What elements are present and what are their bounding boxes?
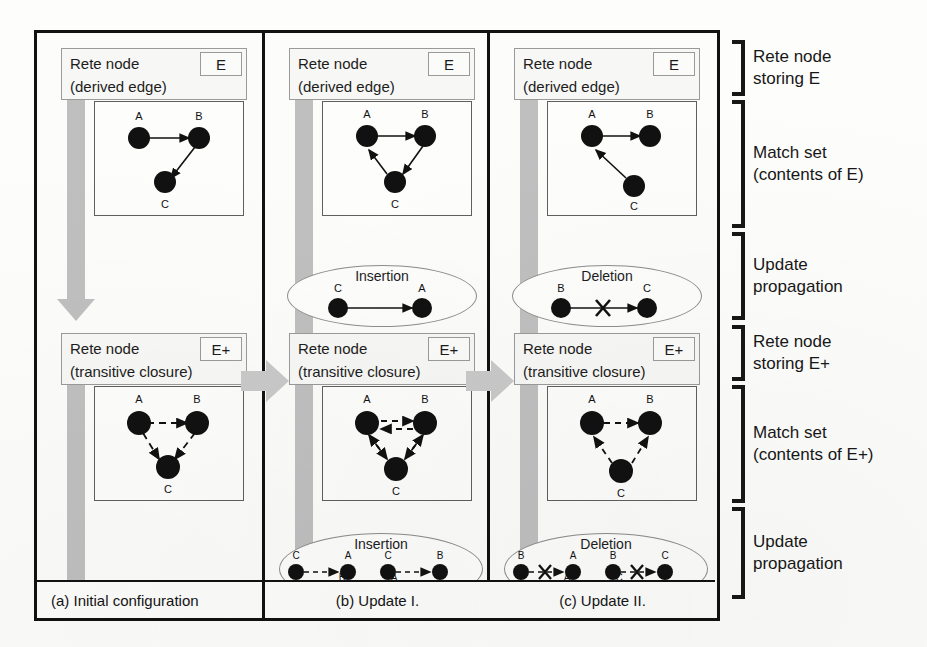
rete-tag-eplus: E+	[200, 337, 242, 361]
graph-svg-closure-a: A B C	[95, 387, 243, 500]
svg-text:B: B	[610, 550, 617, 561]
bracket-icon	[732, 100, 745, 228]
annotation-match-set-contents-of-eplus: Match set (contents of E+)	[732, 385, 873, 503]
svg-text:A: A	[135, 393, 143, 405]
annotation-label: Match set (contents of E)	[753, 142, 864, 186]
svg-text:C: C	[384, 550, 391, 561]
svg-text:C: C	[391, 198, 399, 210]
match-set-graph-derived-a: A B C	[94, 101, 244, 216]
rete-tag-e: E	[200, 52, 242, 76]
rete-node-line2: (derived edge)	[523, 75, 693, 98]
svg-text:B: B	[646, 108, 653, 120]
rete-node-header-closure-b: Rete node (transitive closure) E+	[289, 333, 475, 385]
caption-text: (c) Update II.	[559, 592, 646, 609]
transition-arrow-a-to-b	[241, 371, 267, 391]
svg-text:A: A	[135, 110, 143, 122]
annotation-rete-node-storing-eplus: Rete node storing E+	[732, 325, 831, 381]
svg-text:C: C	[392, 485, 400, 497]
panel-caption-c: (c) Update II.	[490, 580, 715, 618]
rete-node-line2: (transitive closure)	[298, 360, 468, 383]
svg-text:A: A	[588, 108, 596, 120]
bracket-icon	[732, 385, 745, 503]
svg-text:B: B	[421, 108, 428, 120]
svg-text:B: B	[421, 393, 428, 405]
annotation-label: Match set (contents of E+)	[753, 422, 873, 466]
svg-text:C: C	[334, 282, 342, 294]
panel-a-initial-configuration: Rete node (derived edge) E A	[37, 33, 262, 618]
annotation-label: Rete node storing E	[753, 46, 831, 90]
svg-text:B: B	[518, 550, 525, 561]
graph-svg-derived-b: A B C	[323, 102, 471, 215]
deletion-edge-svg-c-top: B C	[513, 266, 701, 326]
insertion-edge-svg-b-top: C A	[288, 266, 476, 326]
graph-svg-derived-a: A B C	[95, 102, 243, 215]
match-set-graph-closure-c: A B C	[547, 386, 697, 501]
rete-node-header-derived-c: Rete node (derived edge) E	[514, 48, 700, 100]
rete-node-header-derived-b: Rete node (derived edge) E	[289, 48, 475, 100]
rete-node-line2: (transitive closure)	[523, 360, 693, 383]
rete-node-line2: (derived edge)	[298, 75, 468, 98]
panel-c-update-two: Rete node (derived edge) E A B C Deletio…	[490, 33, 715, 618]
svg-text:C: C	[643, 282, 651, 294]
annotation-match-set-contents-of-e: Match set (contents of E)	[732, 100, 864, 228]
annotation-rete-node-storing-e: Rete node storing E	[732, 40, 831, 96]
panel-caption-a: (a) Initial configuration	[37, 580, 262, 618]
graph-svg-closure-c: A B C	[548, 387, 696, 500]
caption-text: (b) Update I.	[336, 592, 419, 609]
bracket-icon	[732, 325, 745, 381]
caption-text: (a) Initial configuration	[51, 592, 199, 609]
figure-frame: Rete node (derived edge) E A	[34, 30, 720, 621]
graph-svg-closure-b: A B C	[323, 387, 471, 500]
svg-text:A: A	[418, 282, 426, 294]
svg-text:B: B	[195, 110, 202, 122]
rete-tag-eplus: E+	[428, 337, 470, 361]
rete-node-line2: (derived edge)	[70, 75, 240, 98]
svg-text:B: B	[646, 393, 653, 405]
match-set-graph-closure-a: A B C	[94, 386, 244, 501]
flow-arrow-a-top	[67, 91, 85, 301]
svg-text:C: C	[164, 483, 172, 495]
rete-node-header-closure-a: Rete node (transitive closure) E+	[61, 333, 247, 385]
rete-tag-eplus: E+	[653, 337, 695, 361]
graph-svg-derived-c: A B C	[548, 102, 696, 215]
bracket-icon	[732, 40, 745, 96]
match-set-graph-derived-c: A B C	[547, 101, 697, 216]
rete-tag-e: E	[428, 52, 470, 76]
svg-text:A: A	[363, 108, 371, 120]
svg-text:A: A	[570, 550, 577, 561]
transition-arrow-b-to-c	[466, 371, 492, 391]
match-set-graph-closure-b: A B C	[322, 386, 472, 501]
svg-text:C: C	[617, 487, 625, 499]
rete-tag-e: E	[653, 52, 695, 76]
bracket-icon	[732, 507, 745, 599]
annotation-update-propagation-eplus: Update propagation	[732, 507, 843, 599]
rete-node-line2: (transitive closure)	[70, 360, 240, 383]
svg-text:A: A	[345, 550, 352, 561]
annotation-label: Update propagation	[753, 531, 843, 575]
svg-text:C: C	[292, 550, 299, 561]
figure-root: Rete node (derived edge) E A	[0, 0, 927, 647]
panel-caption-b: (b) Update I.	[265, 580, 490, 618]
svg-text:C: C	[630, 200, 638, 212]
svg-text:A: A	[588, 393, 596, 405]
update-propagation-insertion-b-top: Insertion C A	[287, 265, 477, 327]
match-set-graph-derived-b: A B C	[322, 101, 472, 216]
svg-text:B: B	[437, 550, 444, 561]
panel-b-update-one: Rete node (derived edge) E A B C	[265, 33, 490, 618]
annotation-label: Rete node storing E+	[753, 331, 831, 375]
bracket-icon	[732, 232, 745, 320]
rete-node-header-derived-a: Rete node (derived edge) E	[61, 48, 247, 100]
svg-text:B: B	[193, 393, 200, 405]
svg-text:C: C	[661, 550, 668, 561]
svg-text:C: C	[161, 198, 169, 210]
annotation-label: Update propagation	[753, 254, 843, 298]
svg-text:B: B	[557, 282, 564, 294]
rete-node-header-closure-c: Rete node (transitive closure) E+	[514, 333, 700, 385]
update-propagation-deletion-c-top: Deletion B C	[512, 265, 702, 327]
svg-text:A: A	[363, 393, 371, 405]
annotation-update-propagation-e: Update propagation	[732, 232, 843, 320]
